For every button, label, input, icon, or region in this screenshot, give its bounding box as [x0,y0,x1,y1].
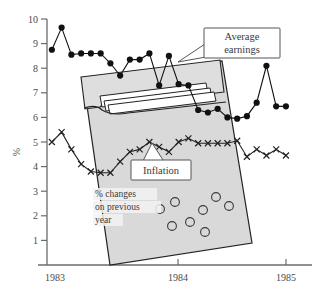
x-tick-label-1984: 1984 [168,272,188,283]
callout-average-earnings: Average earnings [178,28,280,62]
y-tick-label-5: 5 [33,137,38,148]
bag-caption-line2: on previous [95,202,140,212]
data-point [68,146,74,152]
data-point [234,116,240,122]
data-point [156,82,162,88]
data-point [49,139,55,145]
data-point [176,81,182,87]
y-tick-label-6: 6 [33,112,38,123]
data-point [166,53,172,59]
callout-leader-earnings [178,44,206,62]
data-point [244,154,250,160]
callout-earnings-line2: earnings [224,44,260,55]
x-axis-tick-labels: 198319841985 [45,272,296,283]
data-point [263,153,269,159]
data-point [137,56,143,62]
data-point [263,63,269,69]
bag-caption-line3: year [95,215,112,225]
data-point [107,60,113,66]
data-point [254,146,260,152]
data-point [283,153,289,159]
y-tick-label-9: 9 [33,38,38,49]
callout-inflation-label: Inflation [143,165,180,176]
y-tick-label-4: 4 [33,161,38,172]
y-tick-label-7: 7 [33,87,38,98]
data-point [283,103,289,109]
callout-earnings-line1: Average [225,31,260,42]
data-point [254,100,260,106]
y-tick-label-3: 3 [33,186,38,197]
y-tick-label-1: 1 [33,235,38,246]
chart-figure: 10987654321 198319841985 % Average [0,0,322,298]
data-point [244,113,250,119]
data-point [205,109,211,115]
data-point [215,106,221,112]
y-tick-label-10: 10 [28,14,38,25]
x-axis-ticks [178,259,286,265]
x-tick-label-1983: 1983 [45,272,65,283]
y-axis-label: % [11,148,22,156]
data-point [127,56,133,62]
data-point [117,72,123,78]
data-point [273,103,279,109]
data-point [59,129,65,135]
data-point [78,161,84,167]
data-point [224,114,230,120]
data-point [185,82,191,88]
data-point [88,50,94,56]
data-point [68,52,74,58]
y-axis-ticks [41,19,47,240]
y-tick-label-8: 8 [33,63,38,74]
data-point [146,50,152,56]
data-point [59,25,65,31]
x-tick-label-1985: 1985 [276,272,296,283]
y-axis-tick-labels: 10987654321 [28,14,38,246]
chart-canvas: 10987654321 198319841985 % Average [0,0,322,298]
y-tick-label-2: 2 [33,210,38,221]
bag-caption-line1: % changes [95,189,136,199]
data-point [195,107,201,113]
data-point [49,47,55,53]
data-point [98,50,104,56]
data-point [78,50,84,56]
data-point [273,146,279,152]
